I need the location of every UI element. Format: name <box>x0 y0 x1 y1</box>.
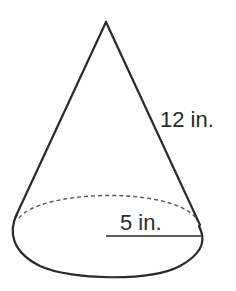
cone-left-side <box>15 22 106 218</box>
radius-label: 5 in. <box>120 210 162 235</box>
slant-height-label: 12 in. <box>160 107 214 132</box>
base-hidden-arc <box>19 195 196 218</box>
cone-diagram: 12 in. 5 in. <box>0 0 236 291</box>
base-visible-arc <box>13 214 203 277</box>
